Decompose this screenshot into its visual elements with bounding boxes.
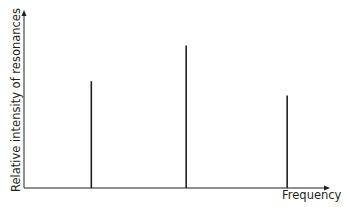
chart-canvas — [0, 0, 346, 207]
x-axis-label: Frequency — [282, 188, 341, 202]
peaks — [91, 46, 287, 188]
y-axis-label: Relative intensity of resonances — [9, 8, 23, 192]
axes — [22, 10, 331, 191]
